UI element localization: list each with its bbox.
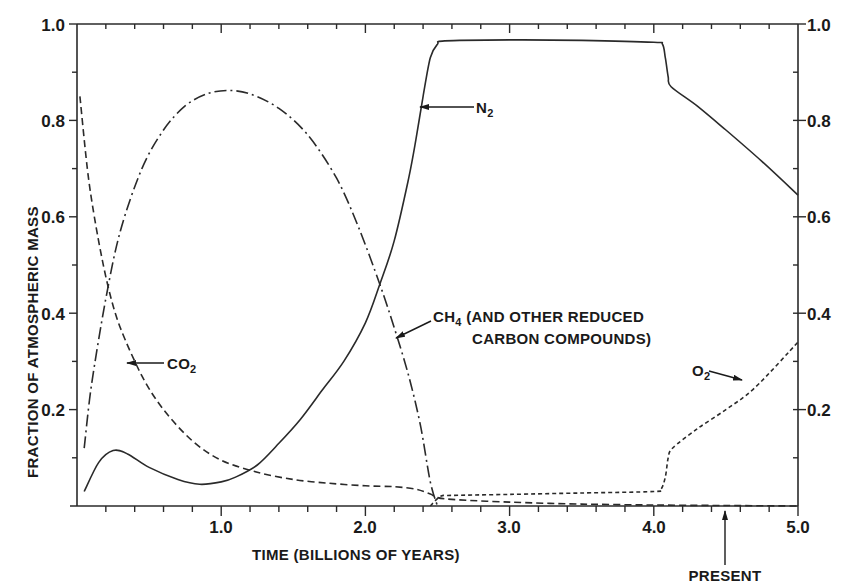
annotation-co2: CO2 [127,355,197,375]
y-axis-right-tick-labels: 0.2 0.4 0.6 0.8 1.0 [807,16,831,420]
y-tick-label-right: 0.8 [807,112,831,131]
y-tick-label-left: 0.4 [41,305,65,324]
x-tick-label: 4.0 [642,518,666,537]
y-tick-label-right: 0.6 [807,208,831,227]
label-ch4-line2: CARBON COMPOUNDS) [472,330,651,347]
x-tick-label: 2.0 [353,518,377,537]
y-axis-title: FRACTION OF ATMOSPHERIC MASS [24,206,41,478]
y-tick-label-right: 0.4 [807,305,831,324]
x-tick-label: 3.0 [497,518,521,537]
label-present: PRESENT [689,567,762,584]
x-axis-tick-labels: 1.0 2.0 3.0 4.0 5.0 [209,518,810,537]
label-o2: O2 [692,362,710,382]
x-tick-label: 5.0 [786,518,810,537]
label-ch4-line1: CH4 (AND OTHER REDUCED [433,308,644,328]
annotation-present: PRESENT [689,511,762,584]
series-ch4-line [84,91,437,507]
y-tick-label-right: 0.2 [807,401,831,420]
y-tick-label-left: 0.2 [41,401,65,420]
arrow-icon [709,371,742,380]
y-axis-left-tick-labels: 0.2 0.4 0.6 0.8 1.0 [41,16,65,420]
label-n2: N2 [476,99,494,119]
annotation-ch4: CH4 (AND OTHER REDUCED CARBON COMPOUNDS) [396,308,651,347]
axis-ticks [69,24,806,516]
series-co2-line [80,96,798,506]
arrow-icon [396,321,431,338]
label-co2: CO2 [167,355,197,375]
annotation-n2: N2 [420,99,494,119]
y-tick-label-left: 0.6 [41,208,65,227]
y-tick-label-left: 0.8 [41,112,65,131]
annotation-o2: O2 [692,362,742,382]
series-o2-line [430,342,798,506]
x-axis-title: TIME (BILLIONS OF YEARS) [252,546,460,563]
y-tick-label-right: 1.0 [807,16,831,35]
plot-frame [70,24,798,506]
chart: 1.0 2.0 3.0 4.0 5.0 0.2 0.4 0.6 0.8 1.0 … [0,0,841,586]
x-tick-label: 1.0 [209,518,233,537]
y-tick-label-left: 1.0 [41,16,65,35]
series-group [80,40,798,506]
